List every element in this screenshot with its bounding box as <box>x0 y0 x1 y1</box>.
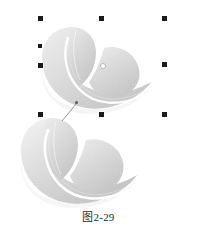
rotation-center-marker[interactable] <box>100 63 106 69</box>
handle-top-left[interactable] <box>38 16 43 21</box>
handle-top-right[interactable] <box>162 16 167 21</box>
handle-bottom-left[interactable] <box>38 112 43 117</box>
leader-line-node[interactable] <box>75 101 78 104</box>
handle-bottom-right[interactable] <box>162 112 167 117</box>
handle-bottom-center[interactable] <box>99 112 104 117</box>
figure-caption: 图2-29 <box>0 208 197 224</box>
handle-middle-left[interactable] <box>38 63 43 68</box>
handle-edge-left-upper[interactable] <box>38 44 42 48</box>
figure-canvas: 图2-29 <box>0 0 197 236</box>
selection-overlay <box>0 0 197 236</box>
handle-top-center[interactable] <box>99 16 104 21</box>
handle-middle-right[interactable] <box>162 62 167 67</box>
